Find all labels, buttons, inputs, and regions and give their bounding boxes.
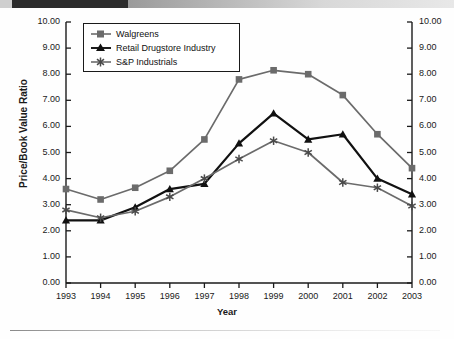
- chart-legend: Walgreens Retail Drugstore Industry: [83, 23, 240, 72]
- series-walgreens: [63, 67, 416, 203]
- legend-item-sp-industrials: S&P Industrials: [90, 55, 177, 69]
- legend-item-retail-drugstore-industry: Retail Drugstore Industry: [90, 41, 216, 55]
- legend-marker-triangle-icon: [90, 42, 112, 54]
- legend-item-walgreens: Walgreens: [90, 27, 159, 41]
- legend-label-retail-drugstore-industry: Retail Drugstore Industry: [116, 43, 216, 53]
- chart-container: Price/Book Value Ratio Year 10.009.008.0…: [0, 8, 454, 330]
- top-banner: [0, 0, 454, 8]
- legend-label-sp-industrials: S&P Industrials: [116, 57, 177, 67]
- chart-page: Price/Book Value Ratio Year 10.009.008.0…: [0, 0, 454, 339]
- banner-gradient-segment: [128, 0, 454, 8]
- series-s-p-industrials: [62, 137, 415, 222]
- series-retail-drugstore-industry: [62, 109, 416, 223]
- legend-label-walgreens: Walgreens: [116, 29, 159, 39]
- legend-marker-square-icon: [90, 28, 112, 40]
- series-layer: [62, 67, 416, 224]
- banner-dark-segment: [12, 0, 128, 8]
- legend-marker-asterisk-icon: [90, 56, 112, 68]
- bottom-divider: [10, 330, 440, 331]
